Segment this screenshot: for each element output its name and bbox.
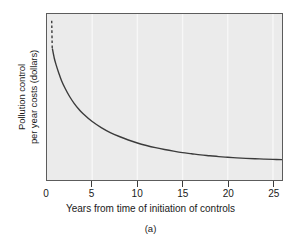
series-line-0 bbox=[52, 49, 282, 160]
x-tick-mark-10 bbox=[137, 181, 138, 187]
y-axis-label-line-2: per year costs (dollars) bbox=[27, 50, 39, 144]
chart-canvas bbox=[47, 14, 282, 180]
y-axis-label: Pollution control per year costs (dollar… bbox=[10, 13, 44, 181]
x-tick-label-20: 20 bbox=[223, 188, 234, 200]
x-tick-label-15: 15 bbox=[177, 188, 188, 200]
figure-panel-a: Pollution control per year costs (dollar… bbox=[0, 0, 301, 249]
plot-area bbox=[46, 13, 283, 181]
x-tick-mark-5 bbox=[91, 181, 92, 187]
gridlines-group bbox=[92, 14, 273, 180]
x-tick-label-0: 0 bbox=[43, 188, 49, 200]
x-tick-label-10: 10 bbox=[132, 188, 143, 200]
x-tick-mark-20 bbox=[228, 181, 229, 187]
x-tick-mark-25 bbox=[273, 181, 274, 187]
x-tick-mark-15 bbox=[182, 181, 183, 187]
annotations-group bbox=[52, 21, 53, 49]
figure-caption: (a) bbox=[0, 223, 301, 235]
x-tick-label-25: 25 bbox=[268, 188, 279, 200]
y-axis-label-line-1: Pollution control bbox=[16, 50, 28, 144]
x-axis-label: Years from time of initiation of control… bbox=[0, 203, 301, 215]
x-tick-label-5: 5 bbox=[89, 188, 95, 200]
data-series-group bbox=[52, 49, 282, 160]
dashed-extension bbox=[52, 21, 53, 49]
